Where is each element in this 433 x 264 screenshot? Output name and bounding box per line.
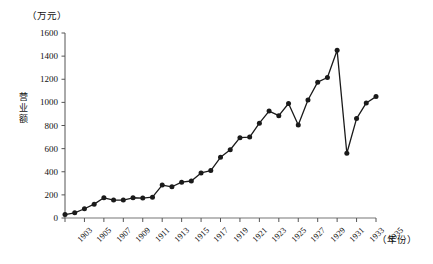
x-tick-label: 1907 bbox=[114, 225, 133, 244]
x-tick-label: 1923 bbox=[269, 225, 288, 244]
x-axis-unit-label: （年份） bbox=[377, 232, 417, 246]
sales-line-chart: （万元） 营业额 02004006008001000120014001600 1… bbox=[0, 0, 433, 264]
x-tick-label: 1919 bbox=[230, 225, 249, 244]
x-tick-label: 1931 bbox=[347, 225, 366, 244]
x-tick-label: 1913 bbox=[172, 225, 191, 244]
x-tick-label: 1929 bbox=[328, 225, 347, 244]
x-tick-label: 1905 bbox=[94, 225, 113, 244]
x-tick-label: 1909 bbox=[133, 225, 152, 244]
x-tick-label: 1925 bbox=[289, 225, 308, 244]
x-tick-label: 1917 bbox=[211, 225, 230, 244]
x-tick-label-group: 1903190519071909191119131915191719191921… bbox=[0, 0, 433, 264]
x-tick-label: 1927 bbox=[308, 225, 327, 244]
x-tick-label: 1921 bbox=[250, 225, 269, 244]
x-tick-label: 1903 bbox=[75, 225, 94, 244]
x-tick-label: 1915 bbox=[192, 225, 211, 244]
x-tick-label: 1911 bbox=[153, 225, 172, 244]
